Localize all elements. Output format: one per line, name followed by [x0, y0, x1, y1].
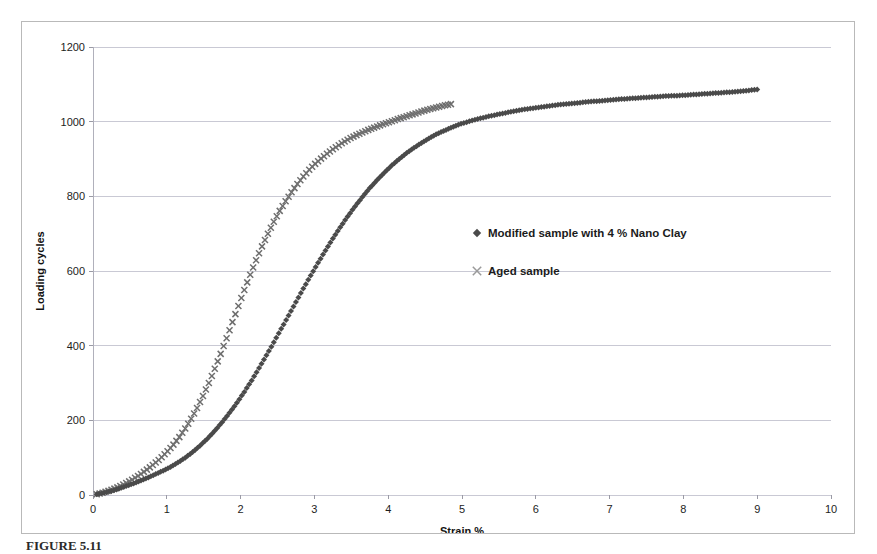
- x-tick-label: 5: [459, 503, 465, 515]
- y-tick-label: 600: [67, 265, 85, 277]
- x-tick-label: 4: [385, 503, 391, 515]
- x-tick-label: 7: [607, 503, 613, 515]
- x-axis-title: Strain %: [440, 525, 484, 533]
- legend-label: Aged sample: [488, 265, 560, 277]
- series-modified-sample: [94, 87, 761, 498]
- chart-legend: Modified sample with 4 % Nano ClayAged s…: [473, 227, 688, 277]
- legend-label: Modified sample with 4 % Nano Clay: [488, 227, 687, 239]
- x-tick-label: 9: [754, 503, 760, 515]
- y-axis-title: Loading cycles: [34, 231, 46, 310]
- figure-caption: FIGURE 5.11: [26, 540, 102, 554]
- y-tick-label: 0: [79, 489, 85, 501]
- y-tick-label: 1000: [61, 116, 85, 128]
- figure-caption-strip: FIGURE 5.11: [0, 540, 877, 554]
- x-tick-label: 2: [238, 503, 244, 515]
- y-tick-label: 400: [67, 340, 85, 352]
- figure-root: 020040060080010001200012345678910Strain …: [0, 0, 877, 554]
- y-tick-label: 200: [67, 414, 85, 426]
- x-tick-label: 3: [311, 503, 317, 515]
- x-tick-label: 10: [825, 503, 837, 515]
- x-tick-label: 6: [533, 503, 539, 515]
- x-tick-label: 1: [164, 503, 170, 515]
- chart-frame: 020040060080010001200012345678910Strain …: [21, 21, 855, 534]
- chart-plot: 020040060080010001200012345678910Strain …: [22, 22, 854, 533]
- y-tick-label: 1200: [61, 41, 85, 53]
- x-tick-label: 0: [90, 503, 96, 515]
- y-tick-label: 800: [67, 190, 85, 202]
- x-tick-label: 8: [680, 503, 686, 515]
- data-marker-diamond: [473, 229, 481, 237]
